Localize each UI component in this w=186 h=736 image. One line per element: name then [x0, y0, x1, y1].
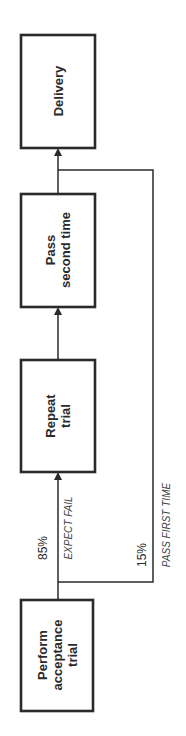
node-pass-second-time-label-2: second time — [58, 212, 73, 288]
node-delivery-label: Delivery — [51, 65, 66, 116]
edge-percent-15: 15% — [135, 543, 149, 567]
flowchart: Delivery Pass second time Repeat trial P… — [0, 0, 186, 736]
node-perform-label-2: acceptance — [50, 620, 65, 691]
node-pass-second-time-label-1: Pass — [43, 235, 58, 265]
node-repeat-trial-label-2: trial — [58, 404, 73, 428]
node-repeat-trial-label-1: Repeat — [43, 394, 58, 438]
node-perform-label-1: Perform — [35, 630, 50, 680]
edge-label-pass-first-time: PASS FIRST TIME — [161, 483, 172, 568]
node-perform-label-3: trial — [65, 643, 80, 667]
edge-label-expect-fail: EXPECT FAIL — [63, 496, 74, 559]
edge-percent-85: 85% — [36, 536, 50, 560]
